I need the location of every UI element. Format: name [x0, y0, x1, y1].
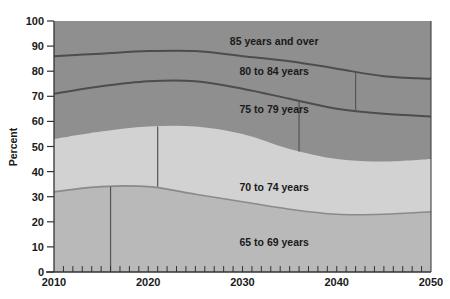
- y-tick-label: 100: [26, 15, 44, 27]
- band-label: 80 to 84 years: [239, 65, 309, 77]
- y-tick-label: 30: [32, 191, 44, 203]
- band-label: 70 to 74 years: [239, 181, 309, 193]
- y-tick-label: 90: [32, 40, 44, 52]
- x-tick-label: 2020: [136, 276, 160, 288]
- stacked-area-chart: 65 to 69 years70 to 74 years75 to 79 yea…: [0, 0, 450, 299]
- y-tick-label: 40: [32, 166, 44, 178]
- band-label: 85 years and over: [230, 35, 319, 47]
- y-tick-label: 80: [32, 65, 44, 77]
- y-tick-label: 60: [32, 115, 44, 127]
- y-tick-label: 10: [32, 241, 44, 253]
- y-tick-label: 70: [32, 90, 44, 102]
- x-tick-label: 2010: [42, 276, 66, 288]
- y-axis-title: Percent: [7, 127, 19, 166]
- band-label: 65 to 69 years: [239, 236, 309, 248]
- x-tick-label: 2030: [230, 276, 254, 288]
- band-label: 75 to 79 years: [239, 103, 309, 115]
- y-tick-label: 20: [32, 216, 44, 228]
- x-tick-label: 2040: [325, 276, 349, 288]
- y-tick-label: 50: [32, 141, 44, 153]
- x-tick-label: 2050: [419, 276, 443, 288]
